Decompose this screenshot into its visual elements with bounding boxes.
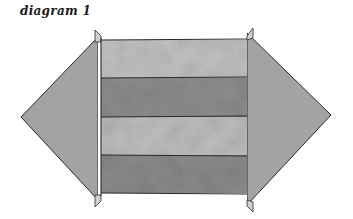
striped-band xyxy=(101,38,247,196)
stripe-4-dark xyxy=(101,155,247,193)
stripe-2-dark xyxy=(101,78,247,117)
left-arrowhead xyxy=(21,30,101,207)
left-top-tab xyxy=(95,30,101,42)
diagram-figure xyxy=(0,0,353,219)
right-triangle-shape xyxy=(247,33,331,205)
stripe-1-light xyxy=(101,40,247,78)
stripe-3-light xyxy=(101,117,247,155)
right-arrowhead xyxy=(247,28,331,212)
right-bottom-tab xyxy=(247,200,253,212)
left-triangle-shape xyxy=(21,37,98,200)
left-bottom-tab xyxy=(95,195,101,207)
